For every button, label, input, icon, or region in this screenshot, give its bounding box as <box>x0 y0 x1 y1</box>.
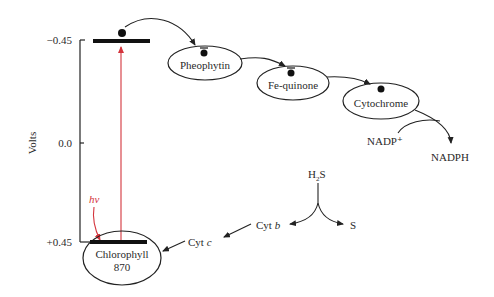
excited-state-bar <box>93 39 150 43</box>
nadp-plus-label: NADP⁺ <box>367 135 403 147</box>
arrow-to-s <box>318 203 343 224</box>
chlorophyll-number: 870 <box>83 261 161 273</box>
pheophytin-label: Pheophytin <box>168 59 242 71</box>
cyt-c-label: Cyt c <box>188 236 212 248</box>
cyt-b-label: Cyt b <box>256 219 280 231</box>
arrow-to-cytochrome <box>327 77 370 84</box>
diagram-graphics <box>0 0 494 297</box>
electron-dot-pheophytin <box>201 50 208 57</box>
ground-state-bar <box>90 240 147 244</box>
arrow-to-cyt-c <box>224 224 251 237</box>
cyt-b-prefix: Cyt <box>256 219 275 231</box>
photosynthesis-electron-transport-diagram: −0.45 0.0 +0.45 Volts Pheophytin Fe-quin… <box>0 0 494 297</box>
arrow-to-chlorophyll <box>163 241 185 251</box>
arrow-to-fe-quinone <box>240 58 285 66</box>
h2s-h: H <box>308 168 316 180</box>
arrow-to-nadph <box>415 110 451 143</box>
nadph-label: NADPH <box>431 151 469 163</box>
s-label: S <box>350 219 356 231</box>
cyt-c-prefix: Cyt <box>188 236 207 248</box>
h2s-label: H2S <box>308 168 326 185</box>
hv-arrow <box>93 207 100 240</box>
axis-tick-neg045: −0.45 <box>28 34 72 46</box>
electron-dot-cytochrome <box>378 86 385 93</box>
fe-quinone-label: Fe-quinone <box>257 79 329 91</box>
arrow-from-nadp <box>398 120 440 133</box>
axis-tick-pos045: +0.45 <box>28 236 72 248</box>
cytochrome-label: Cytochrome <box>343 97 419 109</box>
cyt-c-letter: c <box>207 236 212 248</box>
cyt-b-letter: b <box>275 219 281 231</box>
chlorophyll-label: Chlorophyll <box>83 248 161 260</box>
axis-title: Volts <box>26 132 38 154</box>
electron-dot-fe-quinone <box>288 70 295 77</box>
h2s-s: S <box>319 168 325 180</box>
arrow-to-cyt-b <box>290 203 318 224</box>
voltage-axis <box>80 40 90 242</box>
electron-dot-excited <box>118 29 126 37</box>
hv-label: hν <box>89 193 99 205</box>
